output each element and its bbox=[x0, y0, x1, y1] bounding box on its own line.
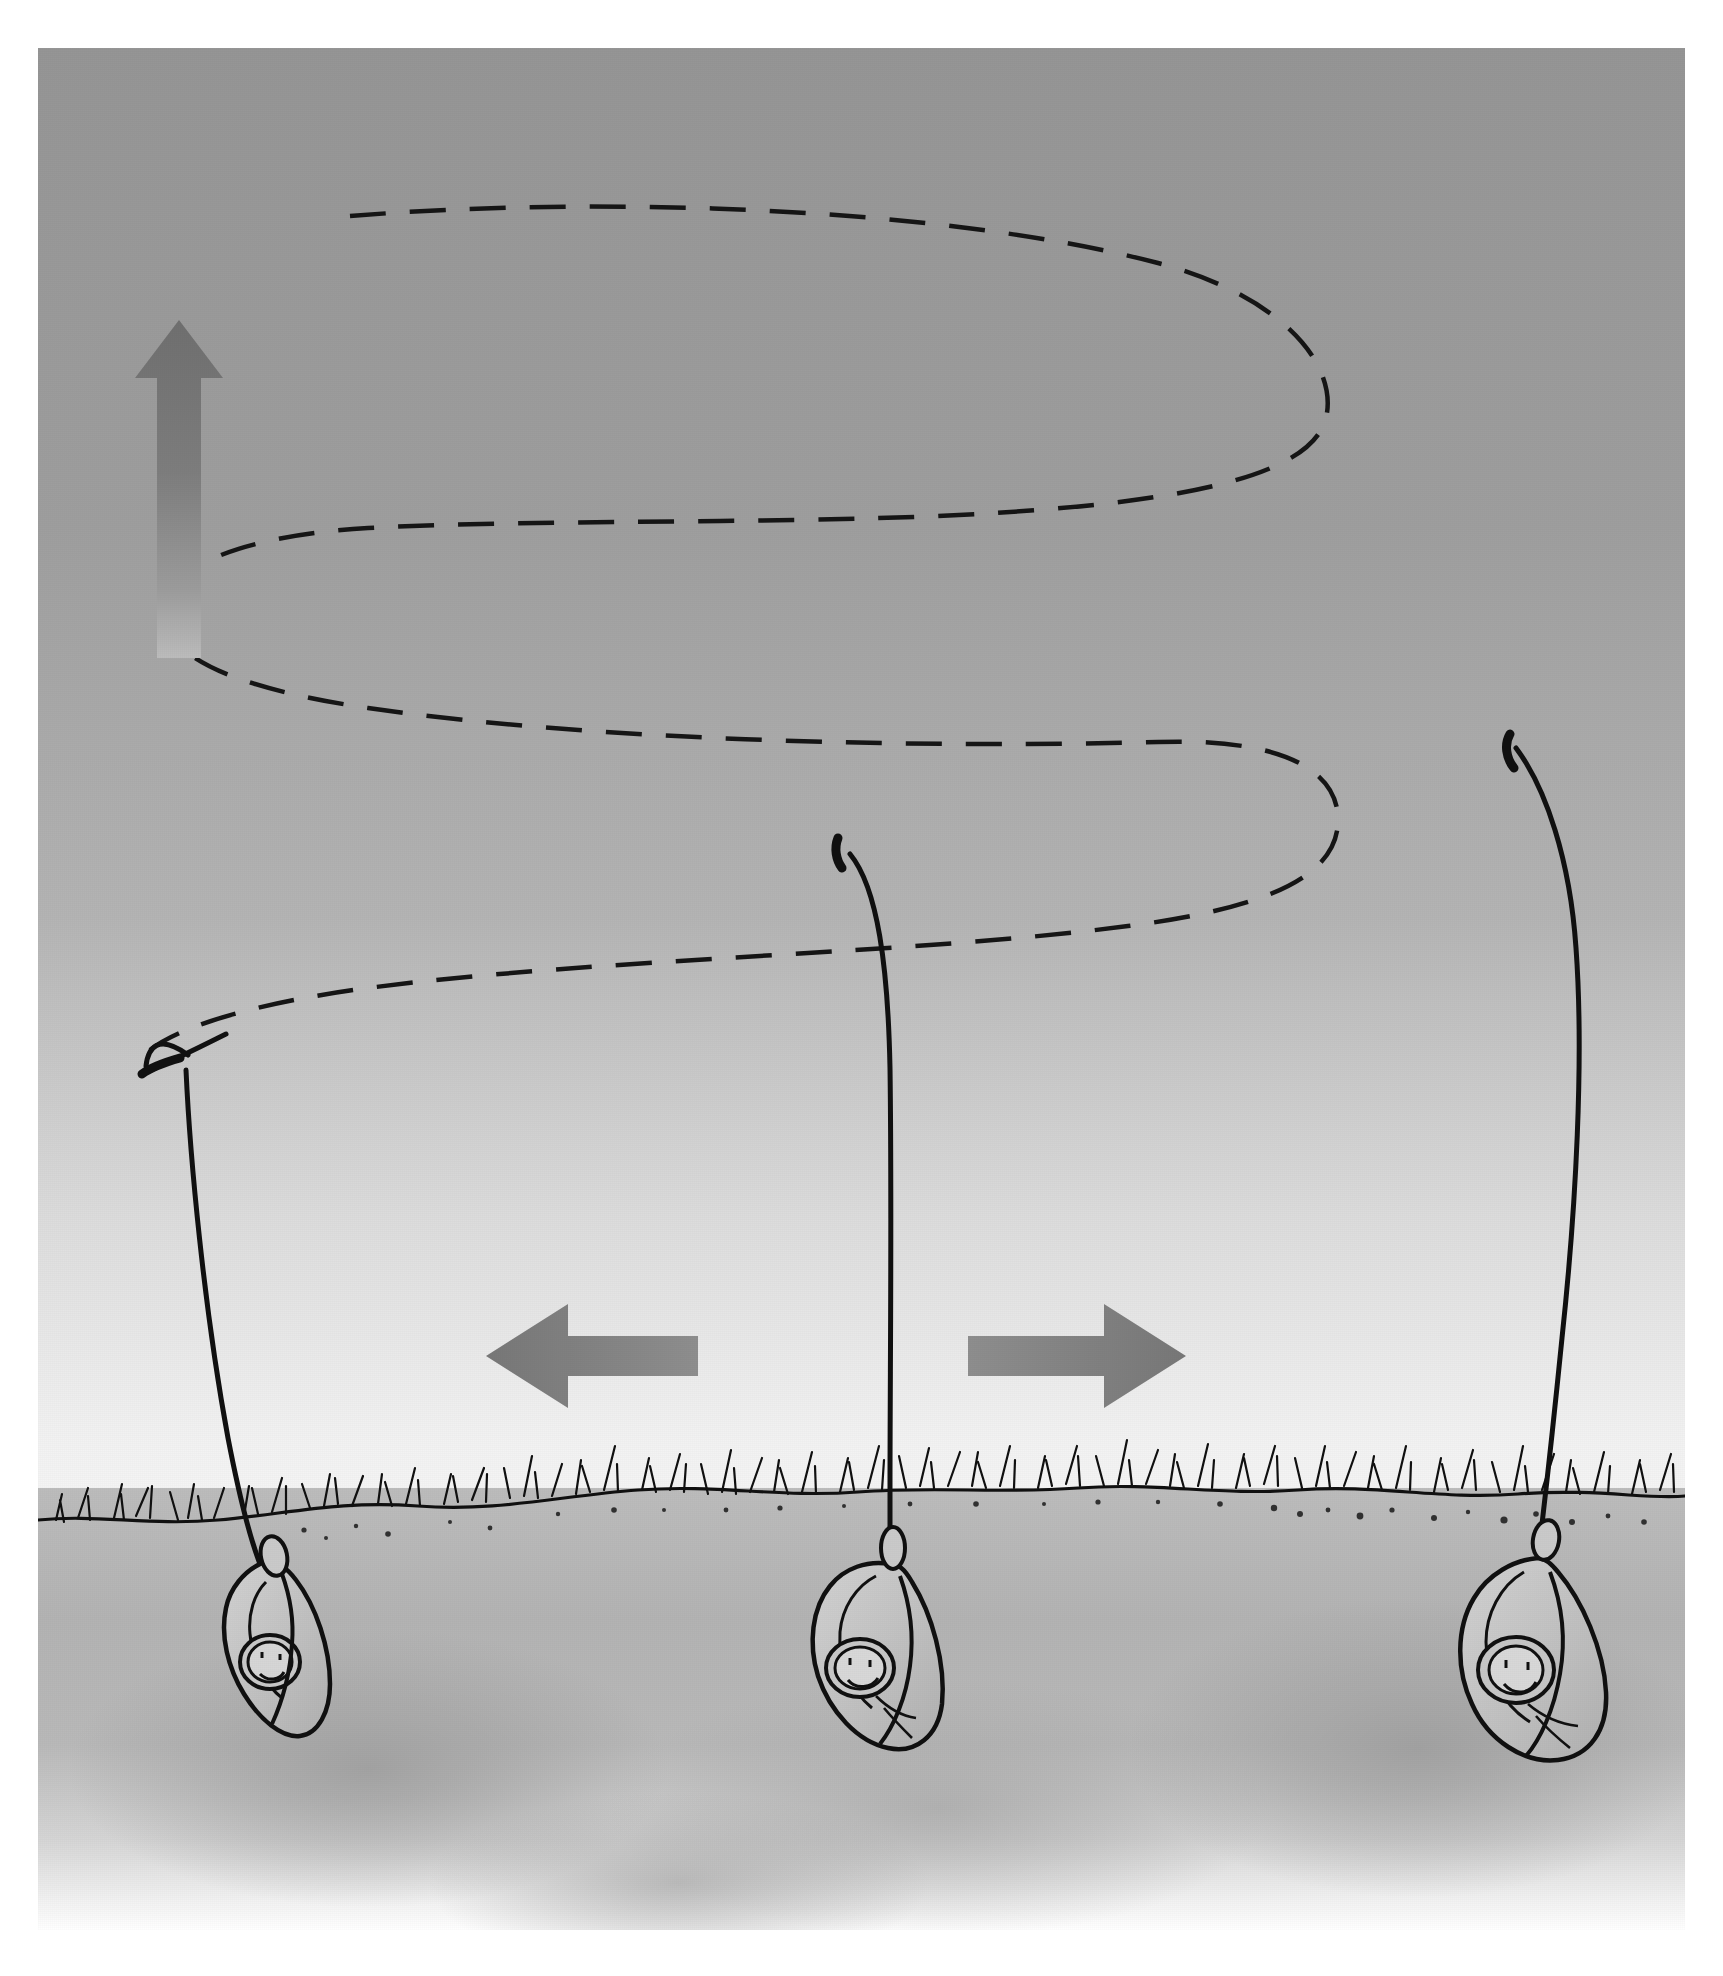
sky-background bbox=[38, 48, 1685, 1548]
plant-center-collar bbox=[881, 1527, 905, 1569]
illustration-scene bbox=[38, 48, 1685, 1930]
scene-svg bbox=[38, 48, 1685, 1930]
figure-root bbox=[0, 0, 1723, 1976]
soil-blotch-3 bbox=[1128, 1598, 1685, 1898]
